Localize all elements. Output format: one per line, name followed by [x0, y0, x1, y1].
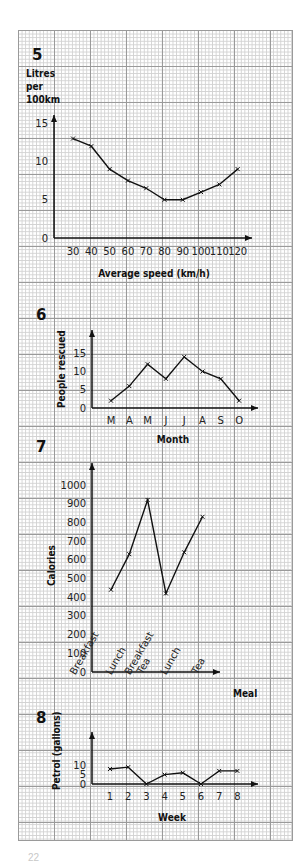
axes — [89, 463, 220, 675]
x-tick-label: 30 — [67, 246, 80, 257]
y-tick-label: 600 — [67, 554, 86, 565]
question-number: 8 — [36, 709, 46, 727]
x-tick-label: A — [126, 415, 133, 426]
x-tick-label: J — [182, 415, 186, 426]
y-tick-label: 0 — [80, 403, 86, 414]
charts-canvas: 5 Litres per 100km 051015 30405060708090… — [0, 0, 308, 863]
x-tick-label: 2 — [125, 791, 131, 802]
x-tick-label: 110 — [210, 246, 229, 257]
x-tick-label: 3 — [143, 791, 149, 802]
chart-q6-people-rescued: 6 People rescued 051015 MAMJJASO Month — [36, 306, 258, 445]
x-tick-label: 6 — [198, 791, 204, 802]
data-points — [71, 137, 240, 202]
y-tick-label: 700 — [67, 536, 86, 547]
x-tick-label: 80 — [158, 246, 171, 257]
x-axis-label: Average speed (km/h) — [98, 268, 210, 279]
y-tick-label: 300 — [67, 610, 86, 621]
chart-q5-fuel-consumption: 5 Litres per 100km 051015 30405060708090… — [26, 46, 252, 279]
axes — [89, 732, 258, 787]
x-tick-label: 60 — [122, 246, 135, 257]
x-tick-label: 4 — [161, 791, 167, 802]
x-tick-label: S — [218, 415, 224, 426]
y-tick-label: 500 — [67, 573, 86, 584]
y-tick-label: 0 — [42, 233, 48, 244]
x-tick-label: 7 — [216, 791, 222, 802]
y-tick-label: 5 — [42, 194, 48, 205]
x-tick-label: 50 — [103, 246, 116, 257]
y-tick-labels: 051015 — [35, 118, 48, 244]
y-tick-label: 15 — [73, 348, 86, 359]
x-tick-labels: 12345678 — [107, 791, 241, 802]
y-tick-label: 800 — [67, 517, 86, 528]
x-tick-label: 70 — [140, 246, 153, 257]
y-tick-label: 5 — [80, 384, 86, 395]
chart-q8-petrol: 8 Petrol (gallons) 0510 12345678 Week — [36, 709, 258, 823]
y-tick-label: 10 — [35, 156, 48, 167]
y-axis-label: Calories — [46, 545, 57, 586]
chart-q7-calories: 7 Calories 01002003004005006007008009001… — [36, 438, 257, 699]
question-number: 5 — [32, 46, 42, 64]
x-tick-labels: 30405060708090100110120 — [67, 246, 248, 257]
x-tick-label: 8 — [234, 791, 240, 802]
x-tick-label: 40 — [85, 246, 98, 257]
y-tick-labels: 051015 — [73, 348, 86, 414]
x-tick-label: A — [199, 415, 206, 426]
y-tick-label: 10 — [73, 760, 86, 771]
x-tick-label: 5 — [180, 791, 186, 802]
data-line — [111, 500, 203, 594]
y-axis-label: Petrol (gallons) — [51, 711, 62, 790]
y-tick-label: 400 — [67, 592, 86, 603]
x-tick-label: 120 — [228, 246, 247, 257]
question-number: 6 — [36, 306, 46, 324]
y-tick-label: 15 — [35, 118, 48, 129]
axes — [51, 115, 252, 241]
y-axis-label: People rescued — [56, 330, 67, 408]
x-tick-label: 90 — [176, 246, 189, 257]
data-points — [109, 355, 241, 403]
y-tick-label: 1000 — [61, 480, 86, 491]
x-tick-label: 1 — [107, 791, 113, 802]
x-tick-label: Tea — [189, 656, 207, 677]
data-line — [111, 357, 239, 401]
y-axis-label-line2: per — [26, 81, 44, 92]
data-points — [108, 765, 239, 786]
page-number-fragment: 22 — [28, 852, 39, 863]
y-tick-labels: 0510 — [73, 760, 86, 790]
x-tick-labels: BreakfastLunchTeaBreakfastLunchTea — [67, 630, 207, 677]
question-number: 7 — [36, 438, 46, 456]
x-tick-label: M — [143, 415, 152, 426]
y-tick-label: 900 — [67, 498, 86, 509]
y-tick-label: 200 — [67, 629, 86, 640]
x-tick-label: M — [107, 415, 116, 426]
data-line — [73, 139, 238, 200]
x-tick-label: O — [235, 415, 243, 426]
x-axis-label: Meal — [233, 688, 257, 699]
x-axis-label: Week — [158, 812, 187, 823]
x-tick-label: J — [163, 415, 167, 426]
x-axis-label: Month — [157, 434, 189, 445]
y-tick-label: 10 — [73, 366, 86, 377]
y-axis-label-line3: 100km — [26, 94, 60, 105]
x-tick-labels: MAMJJASO — [107, 415, 243, 426]
y-axis-label-line1: Litres — [26, 68, 55, 79]
x-tick-label: 100 — [192, 246, 211, 257]
